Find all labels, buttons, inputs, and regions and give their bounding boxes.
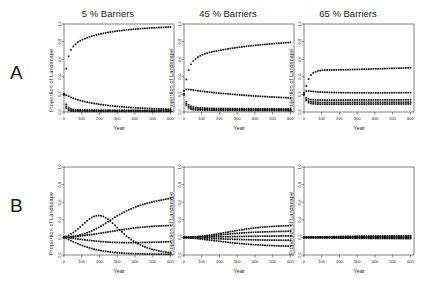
svg-text:200: 200 <box>216 116 224 121</box>
svg-text:0.2: 0.2 <box>297 234 302 240</box>
svg-text:600: 600 <box>407 116 415 121</box>
svg-text:0.4: 0.4 <box>177 216 182 222</box>
svg-text:400: 400 <box>132 116 140 121</box>
svg-text:200: 200 <box>216 259 224 264</box>
y-axis-label: Proportion of Landscape <box>168 192 174 255</box>
figure-row-b: B 0.00.20.40.60.81.00100200300400500600P… <box>0 143 445 285</box>
svg-text:0.4: 0.4 <box>57 73 62 79</box>
svg-text:1.0: 1.0 <box>177 163 182 169</box>
svg-text:1.0: 1.0 <box>57 163 62 169</box>
svg-text:0.6: 0.6 <box>57 199 62 205</box>
svg-text:500: 500 <box>389 259 397 264</box>
panel-b3: 0.00.20.40.60.81.00100200300400500600Pro… <box>278 143 418 285</box>
svg-text:1.0: 1.0 <box>297 163 302 169</box>
svg-text:100: 100 <box>78 259 86 264</box>
svg-text:0.8: 0.8 <box>297 38 302 44</box>
svg-text:0: 0 <box>63 259 66 264</box>
svg-text:500: 500 <box>269 116 277 121</box>
panel-a2: 45 % Barriers 0.00.20.40.60.81.001002003… <box>158 0 298 142</box>
svg-text:400: 400 <box>252 259 260 264</box>
svg-text:100: 100 <box>198 259 206 264</box>
panel-b2: 0.00.20.40.60.81.00100200300400500600Pro… <box>158 143 298 285</box>
svg-text:0.6: 0.6 <box>177 199 182 205</box>
svg-text:0: 0 <box>63 116 66 121</box>
svg-text:100: 100 <box>198 116 206 121</box>
x-axis-label: Year <box>304 125 414 131</box>
svg-text:0.8: 0.8 <box>177 181 182 187</box>
svg-text:0.0: 0.0 <box>297 251 302 257</box>
svg-text:500: 500 <box>389 116 397 121</box>
panel-letter-a: A <box>10 62 23 84</box>
svg-text:0.2: 0.2 <box>177 234 182 240</box>
svg-text:0.6: 0.6 <box>297 56 302 62</box>
panel-letter-b: B <box>10 195 23 217</box>
svg-text:0: 0 <box>183 259 186 264</box>
svg-text:0.2: 0.2 <box>57 234 62 240</box>
panel-b1: 0.00.20.40.60.81.00100200300400500600Pro… <box>38 143 178 285</box>
svg-text:0.0: 0.0 <box>57 251 62 257</box>
svg-text:400: 400 <box>372 259 380 264</box>
svg-text:300: 300 <box>234 116 242 121</box>
y-axis-label: Proportion of Landscape <box>48 49 54 112</box>
svg-text:500: 500 <box>269 259 277 264</box>
svg-text:300: 300 <box>234 259 242 264</box>
svg-text:0.0: 0.0 <box>177 251 182 257</box>
svg-text:0.8: 0.8 <box>57 181 62 187</box>
svg-text:0: 0 <box>183 116 186 121</box>
figure-row-a: A 5 % Barriers 0.00.20.40.60.81.00100200… <box>0 0 445 142</box>
y-axis-label: Proportion of Landscape <box>288 49 294 112</box>
svg-text:500: 500 <box>149 259 157 264</box>
y-axis-label: Proportion of Landscape <box>288 192 294 255</box>
y-axis-label: Proportion of Landscape <box>168 49 174 112</box>
svg-text:500: 500 <box>149 116 157 121</box>
svg-text:0.2: 0.2 <box>297 91 302 97</box>
svg-text:0.4: 0.4 <box>297 73 302 79</box>
svg-text:300: 300 <box>354 259 362 264</box>
svg-text:0.8: 0.8 <box>297 181 302 187</box>
svg-text:400: 400 <box>252 116 260 121</box>
svg-text:0.6: 0.6 <box>57 56 62 62</box>
svg-text:0.4: 0.4 <box>177 73 182 79</box>
svg-text:1.0: 1.0 <box>57 20 62 26</box>
svg-text:0.2: 0.2 <box>177 91 182 97</box>
x-axis-label: Year <box>304 268 414 274</box>
svg-text:0: 0 <box>303 259 306 264</box>
svg-text:0: 0 <box>303 116 306 121</box>
svg-text:1.0: 1.0 <box>177 20 182 26</box>
svg-text:100: 100 <box>318 116 326 121</box>
svg-text:300: 300 <box>354 116 362 121</box>
y-axis-label: Proportion of Landscape <box>48 192 54 255</box>
svg-text:0.0: 0.0 <box>57 108 62 114</box>
svg-text:0.0: 0.0 <box>177 108 182 114</box>
svg-text:400: 400 <box>372 116 380 121</box>
svg-text:200: 200 <box>336 116 344 121</box>
svg-text:0.2: 0.2 <box>57 91 62 97</box>
figure-panel-grid: A 5 % Barriers 0.00.20.40.60.81.00100200… <box>0 0 445 285</box>
svg-text:0.6: 0.6 <box>297 199 302 205</box>
svg-text:200: 200 <box>96 259 104 264</box>
svg-text:300: 300 <box>114 259 122 264</box>
svg-text:0.4: 0.4 <box>297 216 302 222</box>
svg-text:0.4: 0.4 <box>57 216 62 222</box>
svg-text:300: 300 <box>114 116 122 121</box>
svg-text:200: 200 <box>336 259 344 264</box>
svg-text:0.8: 0.8 <box>177 38 182 44</box>
panel-a3: 65 % Barriers 0.00.20.40.60.81.001002003… <box>278 0 418 142</box>
svg-text:100: 100 <box>78 116 86 121</box>
svg-text:400: 400 <box>132 259 140 264</box>
svg-text:200: 200 <box>96 116 104 121</box>
svg-text:1.0: 1.0 <box>297 20 302 26</box>
svg-text:0.0: 0.0 <box>297 108 302 114</box>
svg-text:0.6: 0.6 <box>177 56 182 62</box>
svg-text:600: 600 <box>407 259 415 264</box>
svg-text:0.8: 0.8 <box>57 38 62 44</box>
svg-text:100: 100 <box>318 259 326 264</box>
panel-a1: 5 % Barriers 0.00.20.40.60.81.0010020030… <box>38 0 178 142</box>
